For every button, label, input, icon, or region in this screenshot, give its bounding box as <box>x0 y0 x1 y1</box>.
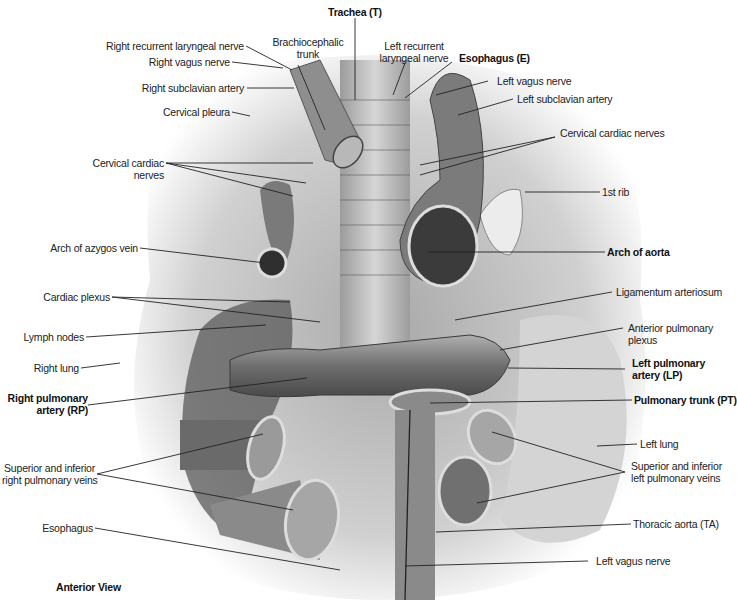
label-right-subclavian-artery: Right subclavian artery <box>80 82 244 94</box>
label-pulmonary-trunk: Pulmonary trunk (PT) <box>634 394 737 406</box>
label-right-lung: Right lung <box>10 362 79 374</box>
label-anterior-pulmonary-plexus-1: Anterior pulmonary <box>628 322 713 334</box>
label-arch-of-aorta: Arch of aorta <box>607 246 670 258</box>
label-lymph-nodes: Lymph nodes <box>10 331 84 343</box>
label-left-pulmonary-veins-1: Superior and inferior <box>631 460 722 472</box>
trachea-shape <box>340 60 410 360</box>
label-left-vagus-nerve-bottom: Left vagus nerve <box>596 555 670 567</box>
label-left-vagus-nerve-top: Left vagus nerve <box>497 75 571 87</box>
label-left-pulmonary-veins-2: left pulmonary veins <box>631 472 720 484</box>
label-right-pulmonary-veins-1: Superior and inferior <box>2 462 95 474</box>
label-first-rib: 1st rib <box>602 186 629 198</box>
label-esophagus: Esophagus <box>20 522 93 534</box>
label-cervical-cardiac-nerves-left-2: nerves <box>60 169 164 181</box>
label-left-pulmonary-artery-1: Left pulmonary <box>632 357 705 369</box>
label-cardiac-plexus: Cardiac plexus <box>20 291 110 303</box>
label-right-pulmonary-artery-2: artery (RP) <box>4 404 88 416</box>
label-cervical-pleura: Cervical pleura <box>80 106 230 118</box>
label-ligamentum-arteriosum: Ligamentum arteriosum <box>616 286 722 298</box>
label-anterior-pulmonary-plexus-2: plexus <box>628 334 657 346</box>
label-arch-of-azygos-vein: Arch of azygos vein <box>30 242 138 254</box>
label-esophagus-e: Esophagus (E) <box>459 52 530 64</box>
label-cervical-cardiac-nerves-right: Cervical cardiac nerves <box>560 127 665 139</box>
label-left-lung: Left lung <box>640 438 678 450</box>
label-right-pulmonary-veins-2: right pulmonary veins <box>2 474 95 486</box>
label-left-pulmonary-artery-2: artery (LP) <box>632 369 682 381</box>
label-right-pulmonary-artery-1: Right pulmonary <box>4 392 88 404</box>
label-thoracic-aorta: Thoracic aorta (TA) <box>633 518 719 530</box>
label-right-vagus-nerve: Right vagus nerve <box>80 56 230 68</box>
label-brachiocephalic-2: trunk <box>272 48 344 60</box>
label-left-recurrent-laryngeal-1: Left recurrent <box>376 40 452 52</box>
label-right-recurrent-laryngeal: Right recurrent laryngeal nerve <box>80 40 244 52</box>
label-left-recurrent-laryngeal-2: laryngeal nerve <box>376 52 452 64</box>
view-label: Anterior View <box>56 581 121 593</box>
label-trachea: Trachea (T) <box>328 6 382 18</box>
label-cervical-cardiac-nerves-left-1: Cervical cardiac <box>60 157 164 169</box>
label-brachiocephalic-1: Brachiocephalic <box>272 36 344 48</box>
label-left-subclavian-artery: Left subclavian artery <box>517 93 612 105</box>
